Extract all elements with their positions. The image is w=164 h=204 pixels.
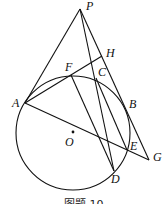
center-dot bbox=[72, 131, 75, 134]
segment-pa bbox=[25, 9, 80, 103]
label-d: D bbox=[110, 172, 120, 186]
segment-pd bbox=[80, 9, 114, 171]
label-c: C bbox=[98, 65, 107, 79]
label-h: H bbox=[105, 46, 116, 60]
segment-ah bbox=[25, 56, 102, 103]
label-g: G bbox=[153, 150, 162, 164]
segment-fd bbox=[71, 75, 114, 171]
label-e: E bbox=[129, 139, 138, 153]
segment-ce bbox=[96, 78, 127, 150]
figure-caption: 图题 10 bbox=[64, 198, 104, 204]
label-p: P bbox=[85, 0, 94, 13]
geometry-figure: P H F C A B O E G D 图题 10 bbox=[0, 0, 164, 204]
label-o: O bbox=[65, 135, 74, 149]
label-a: A bbox=[11, 96, 20, 110]
segment-pg bbox=[80, 9, 149, 160]
label-f: F bbox=[64, 60, 73, 74]
label-b: B bbox=[129, 97, 137, 111]
